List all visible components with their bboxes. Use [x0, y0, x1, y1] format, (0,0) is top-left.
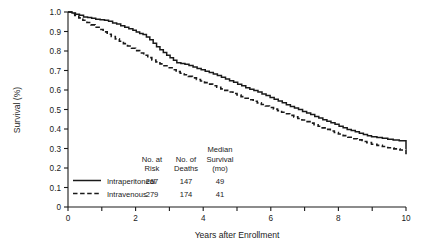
- y-axis-ticks: [64, 12, 68, 207]
- x-tick-label: 2: [133, 214, 138, 223]
- legend-header-survival-line2: Survival: [206, 155, 233, 164]
- y-tick-label: 0.3: [50, 145, 62, 154]
- x-tick-label: 10: [401, 214, 411, 223]
- x-axis-tick-labels: 0246810: [66, 214, 411, 223]
- x-axis-title: Years after Enrollment: [195, 230, 280, 240]
- y-tick-label: 0.1: [50, 184, 62, 193]
- x-tick-label: 8: [336, 214, 341, 223]
- y-tick-label: 0.5: [50, 106, 62, 115]
- survival-curve-intraperitoneal: [68, 12, 406, 149]
- data-series-group: [68, 12, 406, 157]
- legend-value-intraperitoneal-at-risk: 267: [146, 177, 159, 186]
- legend-value-intravenous-at-risk: 279: [146, 190, 159, 199]
- y-tick-label: 0.7: [50, 67, 62, 76]
- legend-table: Median No. at No. of Survival Risk Death…: [73, 145, 234, 199]
- y-axis-tick-labels: 00.10.20.30.40.50.60.70.80.91.0: [50, 8, 62, 212]
- survival-chart-figure: 00.10.20.30.40.50.60.70.80.91.0 Survival…: [0, 0, 432, 246]
- y-tick-label: 0.9: [50, 28, 62, 37]
- x-tick-label: 0: [66, 214, 71, 223]
- legend-value-intravenous-median: 41: [216, 190, 224, 199]
- y-tick-label: 0.6: [50, 86, 62, 95]
- legend-label-intravenous: Intravenous: [107, 190, 147, 199]
- legend-value-intraperitoneal-deaths: 147: [180, 177, 193, 186]
- legend-header-survival-line3: (mo): [212, 164, 228, 173]
- legend-value-intravenous-deaths: 174: [180, 190, 193, 199]
- legend-median-label: Median: [208, 145, 233, 154]
- y-tick-label: 0.8: [50, 47, 62, 56]
- y-tick-label: 0.4: [50, 125, 62, 134]
- legend-header-deaths-line1: No. of: [176, 155, 197, 164]
- x-tick-label: 6: [269, 214, 274, 223]
- y-axis: 00.10.20.30.40.50.60.70.80.91.0 Survival…: [12, 8, 68, 212]
- y-tick-label: 0: [56, 203, 61, 212]
- y-axis-title: Survival (%): [12, 87, 22, 133]
- kaplan-meier-chart: 00.10.20.30.40.50.60.70.80.91.0 Survival…: [0, 0, 432, 246]
- legend-header-deaths-line2: Deaths: [174, 164, 198, 173]
- x-axis-ticks: [68, 207, 406, 211]
- legend-value-intraperitoneal-median: 49: [216, 177, 224, 186]
- x-axis: 0246810 Years after Enrollment: [66, 207, 411, 240]
- y-tick-label: 1.0: [50, 8, 62, 17]
- legend-header-at-risk-line1: No. at: [142, 155, 163, 164]
- y-tick-label: 0.2: [50, 164, 62, 173]
- legend-header-at-risk-line2: Risk: [145, 164, 160, 173]
- x-tick-label: 4: [201, 214, 206, 223]
